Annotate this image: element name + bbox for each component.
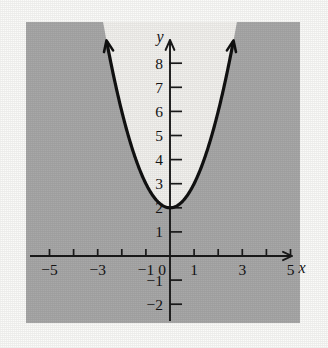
y-axis-tick-label: 7: [155, 79, 163, 96]
y-axis-tick-label: 3: [155, 175, 163, 192]
x-axis-tick-label: 3: [238, 261, 246, 278]
y-axis-tick-label: 5: [155, 127, 163, 144]
x-axis-tick-label: −3: [89, 261, 106, 278]
x-axis-label: x: [297, 259, 305, 276]
coordinate-plane: −5−3−10135−2−112345678xy: [0, 0, 328, 348]
x-axis-tick-label: 5: [287, 261, 295, 278]
y-axis-label: y: [154, 28, 164, 46]
y-axis-tick-label: 6: [155, 103, 163, 120]
y-axis-tick-label: −1: [147, 272, 164, 289]
y-axis-tick-label: −2: [147, 296, 164, 313]
graph-figure: −5−3−10135−2−112345678xy: [0, 0, 328, 348]
y-axis-tick-label: 1: [155, 223, 163, 240]
x-axis-tick-label: −5: [41, 261, 58, 278]
y-axis-tick-label: 4: [155, 151, 163, 168]
y-axis-tick-label: 2: [155, 199, 163, 216]
x-axis-tick-label: 1: [190, 261, 198, 278]
y-axis-tick-label: 8: [155, 55, 163, 72]
